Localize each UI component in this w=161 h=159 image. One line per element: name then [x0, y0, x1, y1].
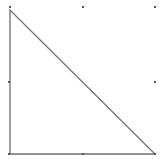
resize-handle-top-left[interactable]	[9, 6, 11, 8]
shape-layer	[0, 0, 161, 159]
resize-handle-middle-left[interactable]	[8, 81, 10, 83]
resize-handle-bottom-right[interactable]	[154, 153, 156, 155]
right-triangle-shape[interactable]	[10, 10, 155, 154]
resize-handle-bottom-middle[interactable]	[82, 153, 84, 155]
resize-handle-top-middle[interactable]	[82, 6, 84, 8]
resize-handle-top-right[interactable]	[154, 6, 156, 8]
drawing-canvas[interactable]	[0, 0, 161, 159]
resize-handle-bottom-left[interactable]	[8, 153, 10, 155]
resize-handle-middle-right[interactable]	[154, 81, 156, 83]
